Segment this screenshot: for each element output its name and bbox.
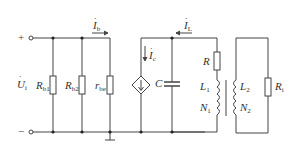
plus-terminal <box>29 36 33 40</box>
circuit-diagram: + − Ui · Rb1 Rb2 rbe Ib · Ic · IL · C R … <box>0 0 294 149</box>
rb2-label: Rb2 <box>65 80 79 93</box>
top-wire-input <box>33 38 110 72</box>
phasor-dot: · <box>19 72 21 81</box>
junction-dot <box>51 36 54 39</box>
minus-terminal <box>29 130 33 134</box>
r-label: R <box>203 56 210 67</box>
ri-resistor <box>265 78 271 96</box>
c-label: C <box>155 78 162 89</box>
rbe-resistor <box>107 76 113 94</box>
phasor-dot: · <box>150 44 152 53</box>
minus-sign: − <box>18 126 24 137</box>
primary-wire <box>172 38 217 132</box>
rb2-resistor <box>79 76 85 94</box>
junction-dot <box>170 130 173 133</box>
junction-dot <box>80 130 83 133</box>
l2-coil <box>234 80 237 115</box>
junction-dot <box>51 130 54 133</box>
l1-coil <box>217 80 220 115</box>
ib-arrowhead <box>104 31 108 35</box>
r-resistor <box>214 52 220 70</box>
n2-label: N2 <box>240 102 251 115</box>
l2-label: L2 <box>240 81 250 94</box>
il-arrowhead <box>176 31 180 35</box>
l1-label: L1 <box>200 81 210 94</box>
ri-label: Ri <box>275 81 284 94</box>
phasor-dot: · <box>94 14 96 23</box>
ic-arrowhead <box>143 57 147 61</box>
junction-dot <box>139 130 142 133</box>
circuit-schematic <box>0 0 294 149</box>
capacitor-plates <box>164 82 180 86</box>
rbe-label: rbe <box>95 80 106 93</box>
junction-dot <box>108 130 111 133</box>
n1-label: N1 <box>200 102 211 115</box>
junction-dot <box>170 36 173 39</box>
rb1-resistor <box>50 76 56 94</box>
phasor-dot: · <box>185 14 187 23</box>
plus-sign: + <box>18 32 24 43</box>
rb1-label: Rb1 <box>36 80 50 93</box>
junction-dot <box>80 36 83 39</box>
